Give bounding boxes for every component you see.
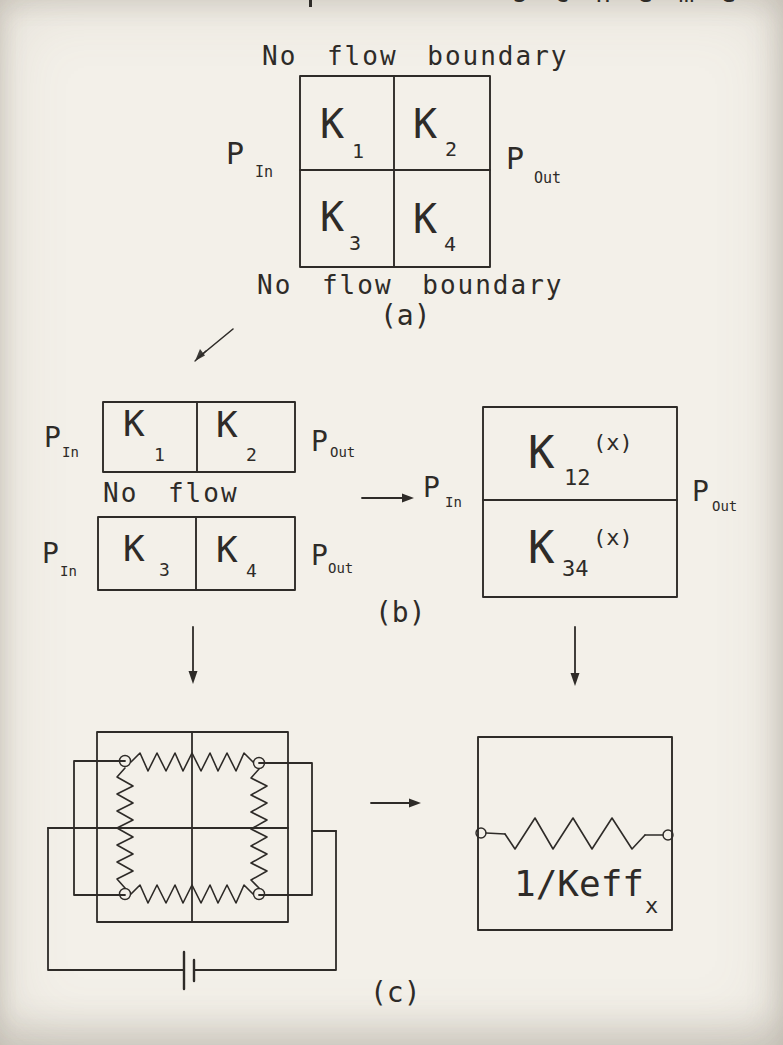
a-cell-k4: K — [413, 199, 437, 239]
a-cell-k1: K — [320, 104, 344, 144]
b-combined-pressure-out-sub: Out — [712, 499, 737, 513]
b-row2-pressure-out-sub: Out — [328, 561, 353, 575]
b-row1-k1-sub: 1 — [154, 446, 165, 464]
b-row1-k2-sub: 2 — [246, 446, 257, 464]
b-subfigure-label: (b) — [375, 599, 426, 627]
scanned-figure-page: scheme — [0, 0, 783, 1045]
c-subfigure-label: (c) — [370, 979, 421, 1007]
b-row1-k1: K — [123, 406, 145, 442]
b-row2-k3: K — [123, 531, 145, 567]
c-keff-label: 1/Keff — [514, 866, 644, 902]
b-row2-k4-sub: 4 — [246, 562, 257, 580]
arrow-right-b-to-c-icon — [571, 627, 580, 686]
b-row1-pressure-out: P — [311, 428, 328, 456]
b-row2-pressure-in-sub: In — [60, 564, 77, 578]
b-combined-pressure-in: P — [423, 474, 440, 502]
figure-line-art — [0, 0, 783, 1045]
b-row1-k2: K — [216, 407, 238, 443]
b-combined-k12: K — [528, 431, 555, 475]
a-bottom-boundary-label: No flow boundary — [257, 272, 563, 298]
resistor-keff — [486, 818, 663, 849]
c-keff-label-sub: x — [645, 895, 658, 917]
a-pressure-in-sub: In — [255, 165, 273, 180]
a-subfigure-label: (a) — [380, 302, 431, 330]
b-row1-pressure-out-sub: Out — [330, 445, 355, 459]
arrow-a-to-b-icon — [195, 329, 233, 361]
b-row1-pressure-in: P — [44, 424, 61, 452]
b-combined-k34-sub: 34 — [562, 558, 589, 580]
b-no-flow-label: No flow — [103, 480, 239, 506]
b-combined-pressure-out: P — [692, 478, 709, 506]
a-pressure-in: P — [226, 139, 244, 169]
a-pressure-out: P — [506, 144, 524, 174]
b-row2-pressure-in: P — [42, 540, 59, 568]
a-cell-k1-sub: 1 — [352, 141, 364, 161]
a-top-boundary-label: No flow boundary — [262, 43, 568, 69]
a-cell-k4-sub: 4 — [444, 234, 456, 254]
b-row2-pressure-out: P — [311, 542, 328, 570]
arrow-b-merge-icon — [362, 494, 414, 503]
a-cell-k3: K — [320, 197, 344, 237]
a-cell-k2-sub: 2 — [445, 139, 457, 159]
a-cell-k3-sub: 3 — [349, 233, 361, 253]
b-row2-k3-sub: 3 — [159, 561, 170, 579]
arrow-left-b-to-c-icon — [189, 627, 198, 684]
output-bus-wire — [259, 763, 336, 895]
b-combined-k12-sub: 12 — [564, 467, 591, 489]
b-combined-k12-sup: (x) — [593, 432, 633, 454]
battery-icon — [184, 952, 194, 989]
b-row2-k4: K — [216, 532, 238, 568]
b-combined-k34-sup: (x) — [593, 527, 633, 549]
a-cell-k2: K — [413, 104, 437, 144]
b-combined-pressure-in-sub: In — [445, 495, 462, 509]
b-combined-k34: K — [528, 526, 555, 570]
arrow-c-equivalent-icon — [371, 799, 421, 808]
b-row1-pressure-in-sub: In — [62, 445, 79, 459]
a-pressure-out-sub: Out — [534, 171, 561, 186]
resistor-network-c — [48, 732, 336, 989]
